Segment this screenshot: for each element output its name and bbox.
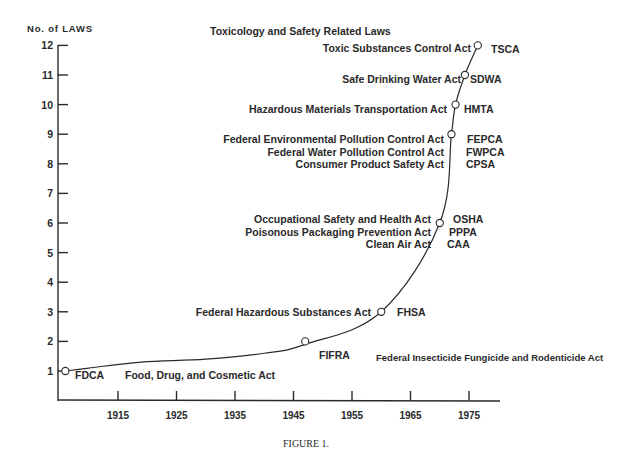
x-tick-label: 1975 bbox=[458, 410, 481, 421]
x-tick-label: 1915 bbox=[107, 410, 130, 421]
data-point-hmta bbox=[452, 101, 459, 108]
y-tick-label: 11 bbox=[42, 69, 53, 81]
laws-curve bbox=[65, 45, 477, 371]
data-point-fdca bbox=[62, 367, 69, 374]
law-name-cpsa: Consumer Product Safety Act bbox=[296, 158, 445, 170]
data-point-fifra bbox=[302, 338, 309, 345]
law-acronym-cpsa: CPSA bbox=[466, 158, 496, 170]
law-labels: FDCAFood, Drug, and Cosmetic ActFIFRAFed… bbox=[75, 42, 604, 381]
law-acronym-sdwa: SDWA bbox=[470, 73, 502, 85]
laws-timeline-chart: No. of LAWS Toxicology and Safety Relate… bbox=[0, 0, 641, 469]
law-acronym-fepca: FEPCA bbox=[467, 133, 503, 145]
law-acronym-osha: OSHA bbox=[453, 213, 484, 225]
law-name-fwpca: Federal Water Pollution Control Act bbox=[267, 146, 444, 158]
figure-caption: FIGURE 1. bbox=[283, 438, 329, 449]
x-tick-label: 1925 bbox=[165, 410, 188, 421]
law-name-hmta: Hazardous Materials Transportation Act bbox=[249, 103, 447, 115]
y-tick-label: 5 bbox=[47, 247, 53, 259]
law-name-osha: Occupational Safety and Health Act bbox=[254, 213, 431, 225]
chart-title: Toxicology and Safety Related Laws bbox=[210, 25, 391, 37]
law-acronym-fifra: FIFRA bbox=[319, 349, 350, 361]
y-axis-label: No. of LAWS bbox=[27, 23, 93, 34]
law-name-fdca: Food, Drug, and Cosmetic Act bbox=[125, 369, 276, 381]
law-name-sdwa: Safe Drinking Water Act bbox=[342, 73, 461, 85]
law-acronym-fdca: FDCA bbox=[75, 369, 105, 381]
y-tick-label: 10 bbox=[41, 99, 53, 111]
data-point-fhsa bbox=[378, 308, 385, 315]
data-point-osha bbox=[436, 219, 443, 226]
y-ticks: 123456789101112 bbox=[41, 39, 68, 377]
x-tick-label: 1935 bbox=[224, 410, 247, 421]
law-acronym-fwpca: FWPCA bbox=[466, 146, 505, 158]
data-point-fepca bbox=[448, 131, 455, 138]
y-tick-label: 1 bbox=[47, 365, 53, 377]
law-name-fepca: Federal Environmental Pollution Control … bbox=[223, 133, 444, 145]
y-tick-label: 6 bbox=[47, 217, 53, 229]
x-tick-label: 1965 bbox=[399, 410, 422, 421]
law-name-tsca: Toxic Substances Control Act bbox=[323, 42, 472, 54]
law-acronym-tsca: TSCA bbox=[491, 43, 520, 55]
law-acronym-pppa: PPPA bbox=[449, 226, 477, 238]
data-points bbox=[62, 42, 482, 375]
y-tick-label: 8 bbox=[47, 158, 53, 170]
data-point-tsca bbox=[474, 42, 481, 49]
law-acronym-hmta: HMTA bbox=[464, 103, 494, 115]
data-point-sdwa bbox=[461, 71, 468, 78]
x-axis bbox=[58, 400, 500, 401]
law-name-pppa: Poisonous Packaging Prevention Act bbox=[245, 226, 431, 238]
x-tick-label: 1955 bbox=[341, 410, 364, 421]
x-tick-label: 1945 bbox=[282, 410, 305, 421]
y-tick-label: 2 bbox=[47, 335, 53, 347]
law-acronym-caa: CAA bbox=[447, 238, 470, 250]
law-acronym-fhsa: FHSA bbox=[397, 306, 426, 318]
y-tick-label: 7 bbox=[47, 187, 53, 199]
law-name-fifra: Federal Insecticide Fungicide and Rodent… bbox=[376, 352, 604, 363]
y-tick-label: 12 bbox=[41, 39, 53, 51]
y-tick-label: 9 bbox=[47, 128, 53, 140]
law-name-fhsa: Federal Hazardous Substances Act bbox=[196, 306, 372, 318]
y-tick-label: 4 bbox=[47, 276, 53, 288]
x-ticks: 1915192519351945195519651975 bbox=[107, 391, 481, 421]
law-name-caa: Clean Air Act bbox=[366, 238, 432, 250]
y-tick-label: 3 bbox=[47, 306, 53, 318]
